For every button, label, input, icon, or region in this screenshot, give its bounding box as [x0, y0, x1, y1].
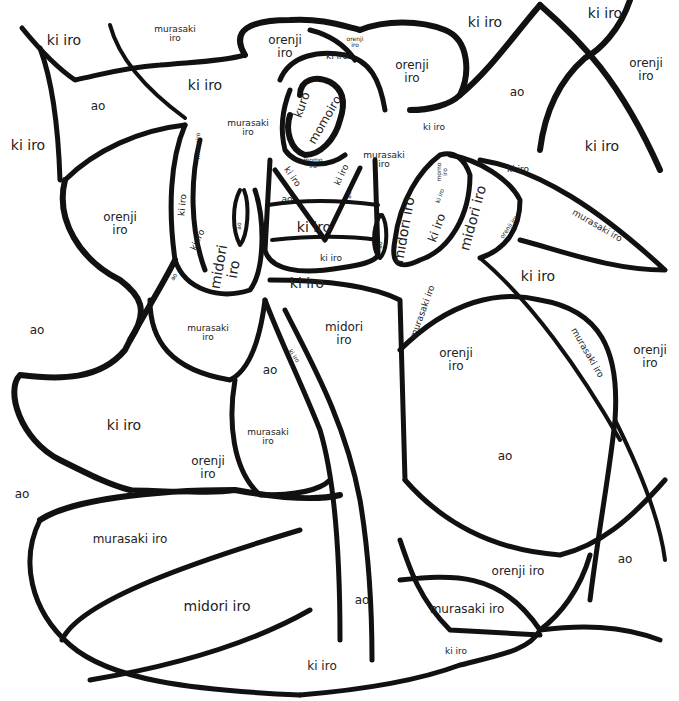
region-label[interactable]: murasaki iro	[430, 603, 505, 616]
label-text: ao	[355, 594, 370, 607]
region-label[interactable]: ao	[510, 86, 525, 99]
label-text: ao	[618, 553, 633, 566]
region-label[interactable]: orenjiiro	[103, 211, 137, 236]
region-label[interactable]: ki iro	[588, 6, 622, 21]
label-text: momoiro	[195, 133, 201, 160]
label-text: ao	[91, 100, 106, 113]
region-label[interactable]: ki iro	[507, 165, 529, 174]
label-text: orenji	[439, 347, 473, 360]
label-text: ki iro	[47, 33, 81, 48]
region-label[interactable]: orenjiiro	[268, 34, 302, 59]
label-text: ao	[30, 324, 45, 337]
region-label[interactable]: ki iro	[11, 138, 45, 153]
region-label[interactable]: ao	[346, 191, 352, 198]
region-label[interactable]: ao	[30, 324, 45, 337]
label-text: iro	[191, 468, 225, 481]
region-label[interactable]: orenjiiro	[633, 344, 667, 369]
label-text: ao	[15, 488, 30, 501]
region-label[interactable]: ki iro	[468, 15, 502, 30]
region-label[interactable]: momoiro	[195, 133, 201, 160]
region-label[interactable]: ki iro	[47, 33, 81, 48]
region-label[interactable]: ao	[15, 488, 30, 501]
outline-path	[400, 540, 540, 635]
label-text: ki iro	[290, 276, 324, 291]
region-label[interactable]: murasakiiro	[247, 428, 289, 447]
region-label[interactable]: ki iro	[423, 123, 445, 132]
label-text: iro	[439, 360, 473, 373]
outline-path	[30, 520, 300, 695]
label-text: ki iro	[320, 254, 342, 263]
label-text: ao	[377, 241, 383, 248]
label-text: iro	[325, 334, 363, 347]
region-label[interactable]: ao	[91, 100, 106, 113]
label-text: midori	[325, 321, 363, 334]
label-text: orenji	[633, 344, 667, 357]
region-label[interactable]: ao	[355, 594, 370, 607]
outline-path	[65, 125, 185, 180]
region-label[interactable]: ki iro	[107, 418, 141, 433]
label-text: ki iro	[177, 194, 188, 217]
outline-path	[540, 555, 590, 630]
region-label[interactable]: ki iro	[297, 220, 331, 235]
region-label[interactable]: ki iro	[445, 647, 467, 656]
outline-path	[540, 0, 630, 150]
label-text: murasaki iro	[93, 533, 168, 546]
region-label[interactable]: murasakiiro	[154, 25, 196, 44]
region-label[interactable]: ao	[618, 553, 633, 566]
region-label[interactable]: momoiro	[303, 157, 322, 170]
label-text: iro	[633, 357, 667, 370]
region-label[interactable]: murasakiiro	[187, 324, 229, 343]
label-text: ki iro	[188, 78, 222, 93]
outline-path	[285, 310, 372, 660]
region-label[interactable]: ki iro	[320, 254, 342, 263]
region-label[interactable]: ki iro	[188, 78, 222, 93]
label-text: iro	[303, 163, 322, 169]
region-label[interactable]: orenjiiro	[395, 59, 429, 84]
region-label[interactable]: ao	[281, 195, 292, 204]
region-label[interactable]: ki iro	[290, 276, 324, 291]
region-label[interactable]: murasakiiro	[227, 119, 269, 138]
region-label[interactable]: ki iro	[326, 52, 348, 61]
region-label[interactable]: momoiro	[436, 162, 449, 181]
label-text: ki iro	[521, 269, 555, 284]
region-label[interactable]: murasaki iro	[93, 533, 168, 546]
label-text: ki iro	[585, 139, 619, 154]
label-text: ki iro	[507, 165, 529, 174]
label-text: ki iro	[297, 220, 331, 235]
label-text: ki iro	[423, 123, 445, 132]
region-label[interactable]: ki iro	[585, 139, 619, 154]
label-text: iro	[154, 34, 196, 43]
label-text: iro	[629, 70, 663, 83]
region-label[interactable]: ki iro	[177, 194, 188, 217]
region-label[interactable]: ao	[263, 364, 278, 377]
region-label[interactable]: orenjiiro	[191, 455, 225, 480]
region-label[interactable]: orenjiiro	[629, 57, 663, 82]
region-label[interactable]: ao	[236, 222, 242, 229]
label-text: ki iro	[307, 660, 336, 673]
outline-path	[63, 180, 141, 340]
region-label[interactable]: orenji iro	[492, 565, 545, 578]
label-text: iro	[268, 47, 302, 60]
label-text: ao	[346, 191, 352, 198]
outline-path	[62, 530, 300, 640]
label-text: iro	[363, 160, 405, 169]
region-label[interactable]: ki iro	[307, 660, 336, 673]
outline-path	[540, 627, 660, 640]
label-text: ki iro	[445, 647, 467, 656]
label-text: ao	[498, 450, 513, 463]
outline-path	[265, 300, 340, 640]
label-text: orenji iro	[492, 565, 545, 578]
label-text: ki iro	[11, 138, 45, 153]
outline-path	[234, 190, 247, 245]
region-label[interactable]: ki iro	[521, 269, 555, 284]
region-label[interactable]: ao	[377, 241, 383, 248]
region-label[interactable]: murasakiiro	[363, 151, 405, 170]
region-label[interactable]: midoriiro	[325, 321, 363, 346]
region-label[interactable]: orenjiiro	[439, 347, 473, 372]
label-text: ki iro	[107, 418, 141, 433]
region-label[interactable]: ao	[498, 450, 513, 463]
label-text: orenji	[103, 211, 137, 224]
region-label[interactable]: orenjiiro	[347, 36, 364, 49]
label-text: iro	[442, 162, 448, 181]
region-label[interactable]: midori iro	[184, 599, 251, 614]
